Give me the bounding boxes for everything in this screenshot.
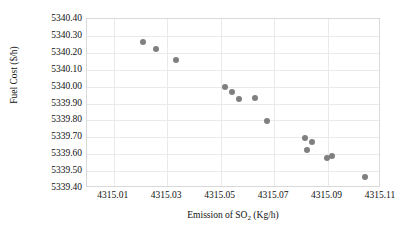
gridline-vertical: [114, 19, 115, 186]
data-point: [153, 46, 159, 52]
gridline-horizontal: [87, 87, 379, 88]
x-tick-label: 4315.11: [350, 190, 408, 201]
x-tick-label: 4315.07: [243, 190, 303, 201]
gridline-horizontal: [87, 154, 379, 155]
scatter-chart: 5339.405339.505339.605339.705339.805339.…: [0, 0, 408, 243]
data-point: [229, 89, 235, 95]
gridline-horizontal: [87, 36, 379, 37]
data-point: [264, 118, 270, 124]
x-axis-title-prefix: Emission of SO: [187, 210, 247, 220]
x-tick-label: 4315.09: [297, 190, 357, 201]
data-point: [362, 174, 368, 180]
gridline-vertical: [274, 19, 275, 186]
gridline-vertical: [221, 19, 222, 186]
gridline-vertical: [328, 19, 329, 186]
gridline-horizontal: [87, 53, 379, 54]
x-axis-tick-labels: 4315.014315.034315.054315.074315.094315.…: [0, 190, 408, 204]
data-point: [173, 57, 179, 63]
y-tick-label: 5339.60: [4, 148, 82, 158]
gridline-horizontal: [87, 171, 379, 172]
x-tick-label: 4315.05: [190, 190, 250, 201]
gridline-horizontal: [87, 104, 379, 105]
data-point: [236, 96, 242, 102]
data-point: [222, 84, 228, 90]
x-axis-title-suffix: (Kg/h): [251, 210, 279, 220]
data-point: [304, 147, 310, 153]
gridline-horizontal: [87, 70, 379, 71]
data-point: [329, 153, 335, 159]
gridline-horizontal: [87, 137, 379, 138]
data-point: [309, 139, 315, 145]
x-axis-title: Emission of SO2 (Kg/h): [86, 210, 380, 222]
gridline-vertical: [167, 19, 168, 186]
y-tick-label: 5339.50: [4, 165, 82, 175]
data-point: [302, 135, 308, 141]
y-axis-title: Fuel Cost ($/h): [9, 15, 19, 135]
x-tick-label: 4315.03: [136, 190, 196, 201]
x-tick-label: 4315.01: [83, 190, 143, 201]
plot-area: [86, 18, 380, 187]
data-point: [140, 39, 146, 45]
gridline-horizontal: [87, 120, 379, 121]
data-point: [252, 95, 258, 101]
